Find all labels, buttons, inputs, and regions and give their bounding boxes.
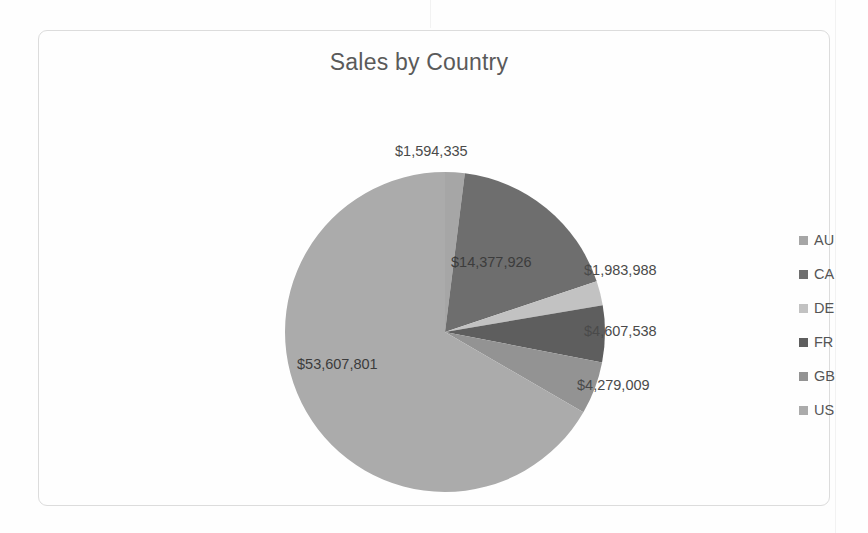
legend-swatch-icon xyxy=(799,270,808,279)
legend-swatch-icon xyxy=(799,406,808,415)
data-label-de: $1,983,988 xyxy=(584,262,657,278)
data-label-us: $53,607,801 xyxy=(297,356,378,372)
pie-slices[interactable] xyxy=(285,172,605,492)
legend-item-au[interactable]: AU xyxy=(799,223,868,257)
data-label-gb: $4,279,009 xyxy=(577,377,650,393)
legend-item-ca[interactable]: CA xyxy=(799,257,868,291)
legend-item-label: AU xyxy=(814,233,834,248)
pie-chart-svg[interactable] xyxy=(284,171,606,493)
data-label-fr: $4,607,538 xyxy=(584,323,657,339)
legend-item-label: CA xyxy=(814,267,834,282)
legend-item-label: FR xyxy=(814,335,833,350)
legend-swatch-icon xyxy=(799,304,808,313)
chart-legend[interactable]: AUCADEFRGBUS xyxy=(799,223,868,427)
scan-fold-line-top xyxy=(430,0,431,28)
data-label-ca: $14,377,926 xyxy=(451,254,532,270)
data-label-au: $1,594,335 xyxy=(395,143,468,159)
legend-swatch-icon xyxy=(799,236,808,245)
legend-item-us[interactable]: US xyxy=(799,393,868,427)
legend-item-label: GB xyxy=(814,369,835,384)
legend-item-gb[interactable]: GB xyxy=(799,359,868,393)
legend-item-label: DE xyxy=(814,301,834,316)
legend-item-de[interactable]: DE xyxy=(799,291,868,325)
chart-title: Sales by Country xyxy=(39,49,799,76)
legend-item-fr[interactable]: FR xyxy=(799,325,868,359)
legend-swatch-icon xyxy=(799,338,808,347)
chart-frame[interactable]: Sales by Country $1,594,335 $14,377,926 … xyxy=(38,30,830,506)
legend-swatch-icon xyxy=(799,372,808,381)
legend-item-label: US xyxy=(814,403,834,418)
pie-chart-plot-area[interactable] xyxy=(284,171,606,493)
